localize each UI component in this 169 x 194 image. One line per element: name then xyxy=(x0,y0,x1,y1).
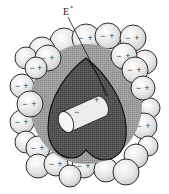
solute-pos-sign: + xyxy=(94,95,99,105)
sphere-neg-sign: − xyxy=(31,143,36,153)
field-label-E: E xyxy=(63,6,69,17)
sphere-neg-sign: − xyxy=(127,65,132,75)
sphere-pos-sign: + xyxy=(134,33,139,43)
sphere-pos-sign: + xyxy=(37,63,42,73)
solvation-diagram: −+−+−+−+−+−+−+−+−+ − + −+−+−+−+−+−+ E * xyxy=(0,0,169,194)
sphere-pos-sign: + xyxy=(23,117,28,127)
solvent-sphere: −+ xyxy=(25,57,47,79)
sphere-neg-sign: − xyxy=(15,117,20,127)
sphere-pos-sign: + xyxy=(145,121,150,131)
solute-neg-sign: − xyxy=(74,107,79,117)
sphere-pos-sign: + xyxy=(57,159,62,169)
solvent-sphere: −+ xyxy=(131,76,155,100)
solvent-sphere xyxy=(113,159,139,185)
solvent-sphere: −+ xyxy=(17,91,43,117)
sphere-pos-sign: + xyxy=(23,81,28,91)
sphere-neg-sign: − xyxy=(136,83,141,93)
solvent-sphere xyxy=(59,165,81,187)
field-label-sup: * xyxy=(70,5,73,11)
sphere-neg-sign: − xyxy=(116,51,121,61)
sphere-pos-sign: + xyxy=(136,65,141,75)
sphere-pos-sign: + xyxy=(39,143,44,153)
sphere-pos-sign: + xyxy=(49,53,54,63)
sphere-neg-sign: − xyxy=(100,31,105,41)
sphere-neg-sign: − xyxy=(15,81,20,91)
sphere-pos-sign: + xyxy=(109,31,114,41)
sphere-pos-sign: + xyxy=(87,33,92,43)
sphere-pos-sign: + xyxy=(31,99,36,109)
sphere-neg-sign: − xyxy=(22,99,27,109)
sphere-pos-sign: + xyxy=(144,83,149,93)
sphere-neg-sign: − xyxy=(49,159,54,169)
sphere-neg-sign: − xyxy=(29,63,34,73)
sphere-neg-sign: − xyxy=(125,33,130,43)
